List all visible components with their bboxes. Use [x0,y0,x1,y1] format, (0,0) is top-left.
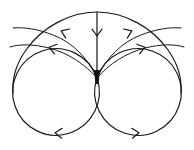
figure-root [0,0,194,150]
phase-portrait-diagram [0,0,194,150]
